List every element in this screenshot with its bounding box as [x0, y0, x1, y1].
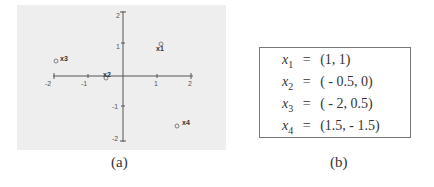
- variable-subscript: 4: [288, 125, 293, 136]
- caption-a: (a): [111, 154, 128, 171]
- coordinate-value: ( - 0.5, 0): [320, 74, 373, 89]
- y-tick-label: 2: [116, 12, 120, 19]
- data-point-x3: [54, 59, 58, 63]
- variable-subscript: 1: [288, 59, 293, 70]
- x-tick-label: -1: [81, 80, 87, 87]
- equals-sign: =: [303, 52, 311, 68]
- points-table: x1 = (1, 1) x2 = ( - 0.5, 0) x3 = ( - 2,…: [259, 47, 411, 138]
- point-label-x2: x2: [103, 71, 111, 78]
- x-tick-label: 1: [154, 80, 158, 87]
- caption-b: (b): [330, 154, 348, 171]
- point-label-x1: x1: [156, 45, 164, 52]
- table-row: x3 = ( - 2, 0.5): [282, 96, 373, 114]
- equals-sign: =: [303, 74, 311, 90]
- x-tick-label: -2: [45, 80, 51, 87]
- x-tick-label: 2: [188, 80, 192, 87]
- coordinate-value: (1, 1): [320, 52, 350, 67]
- table-row: x2 = ( - 0.5, 0): [282, 74, 373, 92]
- y-tick-label: -1: [112, 103, 118, 110]
- variable-subscript: 3: [288, 103, 293, 114]
- point-label-x4: x4: [182, 119, 190, 126]
- data-point-x4: [175, 124, 179, 128]
- equals-sign: =: [303, 96, 311, 112]
- variable-subscript: 2: [288, 81, 293, 92]
- y-tick-label: -2: [112, 135, 118, 142]
- coordinate-value: (1.5, - 1.5): [320, 118, 380, 133]
- point-label-x3: x3: [60, 55, 68, 62]
- coordinate-value: ( - 2, 0.5): [320, 96, 373, 111]
- table-row: x4 = (1.5, - 1.5): [282, 118, 380, 136]
- equals-sign: =: [303, 118, 311, 134]
- table-row: x1 = (1, 1): [282, 52, 350, 70]
- y-tick-label: 1: [116, 43, 120, 50]
